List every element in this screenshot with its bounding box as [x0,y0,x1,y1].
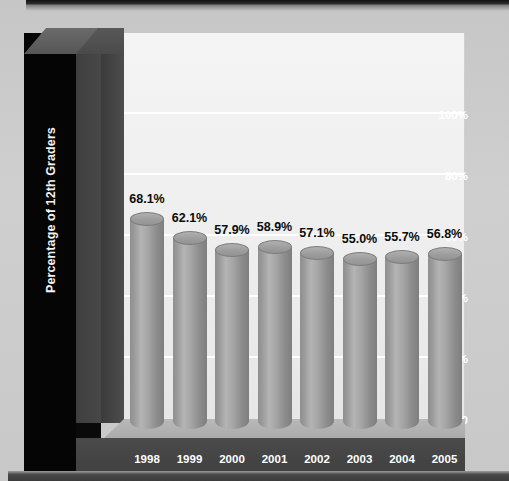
bar-body [215,250,249,429]
x-tick-label: 2001 [262,453,288,465]
bar: 57.9% [215,243,249,429]
x-tick-label: 2004 [389,453,415,465]
bar-value-label: 68.1% [129,192,164,206]
bar-body [428,254,462,429]
y-tick-label: 80% [422,170,468,182]
y-axis-title: Percentage of 12th Graders [44,40,58,380]
x-tick-label: 2002 [304,453,330,465]
bar-body [130,219,164,429]
bar-value-label: 58.9% [257,220,292,234]
bar: 62.1% [173,231,207,429]
bar-value-label: 57.9% [214,223,249,237]
bar-value-label: 56.8% [427,227,462,241]
bar: 55.7% [385,250,419,429]
x-tick-label: 1999 [177,453,203,465]
x-tick-label: 2003 [347,453,373,465]
bar-top-cap [343,252,377,266]
x-tick-label: 2000 [219,453,245,465]
bar: 58.9% [258,240,292,429]
bar: 57.1% [300,246,334,429]
bar-value-label: 55.0% [342,232,377,246]
chart-floor-front: 19981999200020012002200320042005 [76,438,465,475]
bar-body [343,259,377,429]
y-axis-wall-shade [101,54,124,423]
gridline [123,112,464,114]
bar-top-cap [300,246,334,260]
bar: 56.8% [428,247,462,429]
page-background: Percentage of 12th Graders 020%40%60%80%… [0,0,509,481]
bar: 55.0% [343,252,377,429]
bar-body [385,257,419,429]
x-tick-label: 2005 [432,453,458,465]
bar-value-label: 57.1% [299,226,334,240]
bar-value-label: 55.7% [384,230,419,244]
bar-chart: Percentage of 12th Graders 020%40%60%80%… [24,28,474,462]
bar: 68.1% [130,212,164,429]
bar-value-label: 62.1% [172,211,207,225]
bar-body [173,238,207,429]
bar-body [300,253,334,429]
bar-top-cap [385,250,419,264]
bar-body [258,247,292,429]
y-tick-label: 100% [422,109,468,121]
bar-top-cap [428,247,462,261]
gridline [123,173,464,175]
bar-top-cap [173,231,207,245]
chart-floor-left [24,423,76,475]
bottom-page-edge [8,471,509,481]
x-tick-label: 1998 [134,453,160,465]
top-page-shadow [26,6,509,11]
